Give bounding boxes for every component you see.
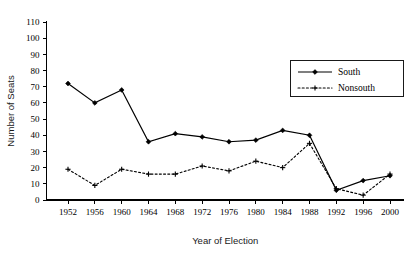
chart-container: 0102030405060708090100110 19521956196019… bbox=[0, 0, 420, 261]
x-tick-label: 1964 bbox=[140, 207, 159, 217]
x-tick-label: 1960 bbox=[113, 207, 132, 217]
y-tick-label: 80 bbox=[31, 66, 41, 76]
x-tick-label: 2000 bbox=[381, 207, 400, 217]
y-tick-label: 10 bbox=[31, 179, 41, 189]
chart-legend: SouthNonsouth bbox=[290, 60, 403, 96]
y-tick-label: 90 bbox=[31, 50, 41, 60]
y-tick-label: 100 bbox=[26, 33, 40, 43]
x-tick-label: 1952 bbox=[59, 207, 77, 217]
x-tick-label: 1980 bbox=[247, 207, 266, 217]
y-tick-label: 30 bbox=[31, 147, 41, 157]
y-tick-label: 70 bbox=[31, 82, 41, 92]
line-chart: 0102030405060708090100110 19521956196019… bbox=[0, 0, 420, 261]
x-axis-title: Year of Election bbox=[192, 235, 258, 246]
y-tick-label: 60 bbox=[31, 98, 41, 108]
x-tick-label: 1992 bbox=[327, 207, 345, 217]
y-tick-label: 110 bbox=[26, 17, 40, 27]
x-tick-label: 1956 bbox=[86, 207, 105, 217]
y-tick-label: 40 bbox=[31, 130, 41, 140]
legend-label: Nonsouth bbox=[338, 83, 375, 93]
x-tick-label: 1968 bbox=[166, 207, 185, 217]
x-tick-label: 1976 bbox=[220, 207, 239, 217]
x-tick-label: 1996 bbox=[354, 207, 373, 217]
x-tick-label: 1988 bbox=[301, 207, 320, 217]
x-tick-label: 1972 bbox=[193, 207, 211, 217]
x-tick-label: 1984 bbox=[274, 207, 293, 217]
y-tick-label: 20 bbox=[31, 163, 41, 173]
y-tick-label: 50 bbox=[31, 114, 41, 124]
y-tick-label: 0 bbox=[35, 195, 40, 205]
y-axis-title: Number of Seats bbox=[5, 75, 16, 147]
chart-background bbox=[0, 0, 420, 261]
legend-label: South bbox=[338, 67, 360, 77]
